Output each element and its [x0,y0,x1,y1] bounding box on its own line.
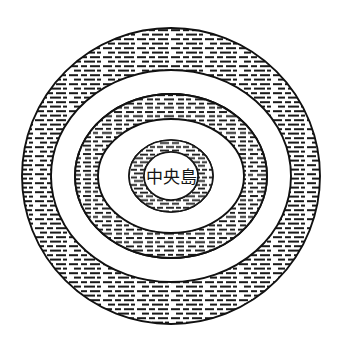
figure-root: 中央島 [0,0,346,356]
central-island-label: 中央島 [146,167,197,187]
zone-central-island: 中央島 [144,152,198,200]
concentric-ring-map-diagram: 中央島 [0,0,346,356]
